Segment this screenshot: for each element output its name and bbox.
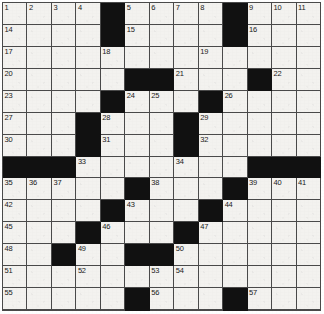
open-square[interactable]: 22 <box>272 69 296 91</box>
open-square[interactable]: 53 <box>150 266 174 288</box>
open-square[interactable] <box>199 288 223 310</box>
open-square[interactable]: 45 <box>3 222 27 244</box>
open-square[interactable]: 8 <box>199 3 223 25</box>
open-square[interactable] <box>27 135 51 157</box>
open-square[interactable]: 21 <box>174 69 198 91</box>
open-square[interactable]: 10 <box>272 3 296 25</box>
open-square[interactable]: 38 <box>150 178 174 200</box>
open-square[interactable] <box>125 266 149 288</box>
open-square[interactable]: 32 <box>199 135 223 157</box>
open-square[interactable] <box>248 91 272 113</box>
open-square[interactable] <box>223 47 247 69</box>
open-square[interactable] <box>150 157 174 179</box>
open-square[interactable] <box>76 310 100 311</box>
open-square[interactable] <box>174 288 198 310</box>
open-square[interactable] <box>76 178 100 200</box>
open-square[interactable] <box>272 310 296 311</box>
open-square[interactable]: 47 <box>199 222 223 244</box>
open-square[interactable]: 20 <box>3 69 27 91</box>
open-square[interactable] <box>27 288 51 310</box>
open-square[interactable] <box>27 222 51 244</box>
open-square[interactable] <box>272 113 296 135</box>
open-square[interactable]: 35 <box>3 178 27 200</box>
open-square[interactable] <box>150 200 174 222</box>
open-square[interactable]: 9 <box>248 3 272 25</box>
open-square[interactable] <box>199 244 223 266</box>
open-square[interactable] <box>27 244 51 266</box>
open-square[interactable]: 4 <box>76 3 100 25</box>
open-square[interactable]: 36 <box>27 178 51 200</box>
open-square[interactable] <box>27 25 51 47</box>
open-square[interactable] <box>223 157 247 179</box>
open-square[interactable]: 60 <box>248 310 272 311</box>
open-square[interactable] <box>248 113 272 135</box>
crossword-grid[interactable]: 1234567891011141516171819202122232425262… <box>2 2 321 311</box>
open-square[interactable] <box>297 113 321 135</box>
open-square[interactable] <box>199 157 223 179</box>
open-square[interactable] <box>76 288 100 310</box>
open-square[interactable]: 48 <box>3 244 27 266</box>
open-square[interactable] <box>223 69 247 91</box>
open-square[interactable] <box>272 244 296 266</box>
open-square[interactable] <box>297 91 321 113</box>
open-square[interactable] <box>223 135 247 157</box>
open-square[interactable] <box>52 135 76 157</box>
open-square[interactable]: 27 <box>3 113 27 135</box>
open-square[interactable]: 59 <box>150 310 174 311</box>
open-square[interactable] <box>272 266 296 288</box>
open-square[interactable]: 50 <box>174 244 198 266</box>
open-square[interactable] <box>272 222 296 244</box>
open-square[interactable] <box>27 266 51 288</box>
open-square[interactable] <box>174 178 198 200</box>
open-square[interactable] <box>52 222 76 244</box>
open-square[interactable]: 43 <box>125 200 149 222</box>
open-square[interactable]: 31 <box>101 135 125 157</box>
open-square[interactable] <box>52 200 76 222</box>
open-square[interactable] <box>27 91 51 113</box>
open-square[interactable]: 16 <box>248 25 272 47</box>
open-square[interactable]: 46 <box>101 222 125 244</box>
open-square[interactable]: 17 <box>3 47 27 69</box>
open-square[interactable] <box>248 222 272 244</box>
open-square[interactable] <box>76 69 100 91</box>
open-square[interactable] <box>76 47 100 69</box>
open-square[interactable] <box>150 135 174 157</box>
open-square[interactable]: 28 <box>101 113 125 135</box>
open-square[interactable]: 33 <box>76 157 100 179</box>
open-square[interactable]: 51 <box>3 266 27 288</box>
open-square[interactable]: 54 <box>174 266 198 288</box>
open-square[interactable]: 37 <box>52 178 76 200</box>
open-square[interactable] <box>125 47 149 69</box>
open-square[interactable] <box>272 135 296 157</box>
open-square[interactable]: 56 <box>150 288 174 310</box>
open-square[interactable]: 34 <box>174 157 198 179</box>
open-square[interactable] <box>52 25 76 47</box>
open-square[interactable] <box>199 69 223 91</box>
open-square[interactable] <box>297 47 321 69</box>
open-square[interactable] <box>297 222 321 244</box>
open-square[interactable] <box>297 310 321 311</box>
open-square[interactable] <box>248 200 272 222</box>
open-square[interactable] <box>52 91 76 113</box>
open-square[interactable]: 1 <box>3 3 27 25</box>
open-square[interactable] <box>27 113 51 135</box>
open-square[interactable]: 52 <box>76 266 100 288</box>
open-square[interactable] <box>272 200 296 222</box>
open-square[interactable]: 7 <box>174 3 198 25</box>
open-square[interactable] <box>297 200 321 222</box>
open-square[interactable] <box>174 47 198 69</box>
open-square[interactable] <box>297 244 321 266</box>
open-square[interactable]: 25 <box>150 91 174 113</box>
open-square[interactable]: 3 <box>52 3 76 25</box>
open-square[interactable]: 49 <box>76 244 100 266</box>
open-square[interactable]: 42 <box>3 200 27 222</box>
open-square[interactable] <box>27 200 51 222</box>
open-square[interactable]: 2 <box>27 3 51 25</box>
open-square[interactable] <box>297 69 321 91</box>
open-square[interactable]: 39 <box>248 178 272 200</box>
open-square[interactable] <box>272 25 296 47</box>
open-square[interactable] <box>272 91 296 113</box>
open-square[interactable] <box>248 266 272 288</box>
open-square[interactable] <box>174 200 198 222</box>
open-square[interactable] <box>101 69 125 91</box>
